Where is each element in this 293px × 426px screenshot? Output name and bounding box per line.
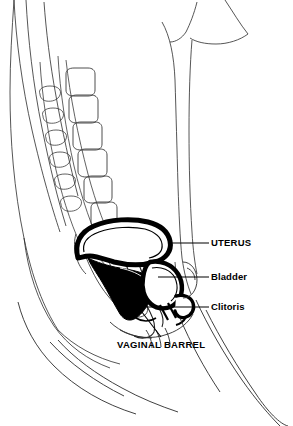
anatomy-illustration [0,0,293,426]
anatomy-figure: UTERUS Bladder Clitoris VAGINAL BARREL [0,0,293,426]
uterus-group [77,220,171,265]
label-vaginal-barrel: VAGINAL BARREL [117,340,205,350]
figure-background [0,0,293,426]
label-uterus: UTERUS [211,238,251,248]
label-clitoris: Clitoris [211,302,245,312]
uterus-body-outline [77,220,171,265]
label-bladder: Bladder [211,272,247,282]
